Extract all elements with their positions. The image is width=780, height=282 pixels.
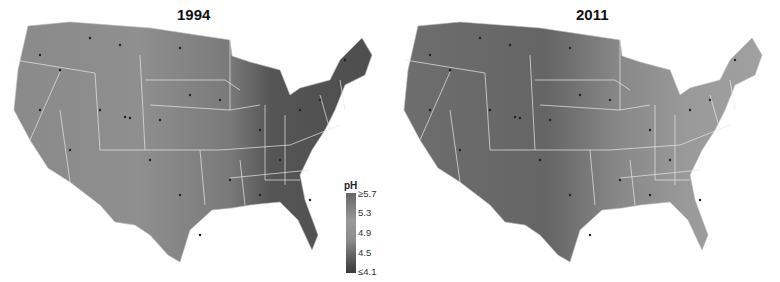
legend-tick: 5.3 xyxy=(358,207,371,218)
map-1994 xyxy=(0,0,390,282)
map-title-2011: 2011 xyxy=(576,6,609,23)
legend-tick: ≥5.7 xyxy=(358,188,376,199)
legend-tick: ≤4.1 xyxy=(358,266,376,277)
map-title-1994: 1994 xyxy=(177,6,210,23)
colorbar xyxy=(346,193,356,273)
legend-tick: 4.5 xyxy=(358,247,371,258)
legend-title: pH xyxy=(344,180,357,191)
legend-tick: 4.9 xyxy=(358,227,371,238)
ph-legend: pH ≥5.7 5.3 4.9 4.5 ≤4.1 xyxy=(336,180,386,280)
